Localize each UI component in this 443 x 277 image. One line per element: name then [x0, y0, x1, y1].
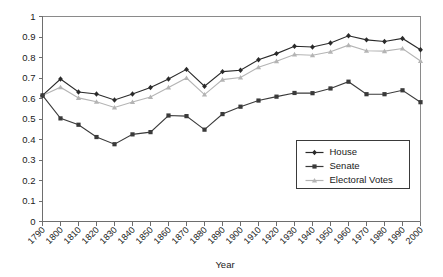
data-point-marker: [310, 91, 314, 95]
x-axis-tick-label: 1890: [206, 225, 227, 246]
data-point-marker: [184, 114, 188, 118]
series-line: [43, 82, 421, 145]
chart-legend: HouseSenateElectoral Votes: [297, 141, 410, 189]
data-point-marker: [148, 85, 153, 90]
data-point-marker: [346, 43, 351, 48]
legend-label-electoral-votes: Electoral Votes: [330, 174, 394, 185]
x-axis-tick-label: 1860: [152, 225, 173, 246]
x-axis-tick-label: 1880: [188, 225, 209, 246]
data-point-marker: [292, 44, 297, 49]
x-axis-tick-label: 1830: [98, 225, 119, 246]
x-axis-tick-label: 1870: [170, 225, 191, 246]
data-point-marker: [312, 164, 316, 168]
series-line: [43, 45, 421, 107]
x-axis-tick-label: 1790: [26, 225, 47, 246]
data-point-marker: [364, 37, 369, 42]
y-axis-tick-label: 0.1: [22, 195, 35, 206]
line-chart: 10.90.80.70.60.50.40.30.20.10 1790180018…: [0, 0, 443, 277]
legend-label-senate: Senate: [330, 160, 360, 171]
data-point-marker: [346, 33, 351, 38]
data-point-marker: [76, 95, 81, 100]
x-axis-tick-label: 1940: [296, 225, 317, 246]
data-point-marker: [274, 51, 279, 56]
data-point-marker: [130, 132, 134, 136]
data-point-marker: [238, 105, 242, 109]
x-axis-tick-label: 1970: [350, 225, 371, 246]
x-axis-title: Year: [215, 259, 234, 270]
legend-label-house: House: [330, 146, 357, 157]
x-axis-tick-label: 1900: [224, 225, 245, 246]
plot-frame: [43, 17, 421, 222]
y-axis-tick-label: 0.5: [22, 113, 35, 124]
data-point-marker: [94, 135, 98, 139]
y-axis-tick-label: 0: [30, 216, 35, 227]
data-point-marker: [166, 113, 170, 117]
data-point-marker: [202, 128, 206, 132]
chart-container: 10.90.80.70.60.50.40.30.20.10 1790180018…: [0, 0, 443, 277]
data-point-marker: [400, 46, 405, 51]
data-point-marker: [400, 36, 405, 41]
y-axis-tick-label: 0.8: [22, 52, 35, 63]
x-axis-tick-label: 2000: [404, 225, 425, 246]
data-point-marker: [328, 40, 333, 45]
x-axis-tick-label: 1950: [314, 225, 335, 246]
x-axis-tick-label: 1850: [134, 225, 155, 246]
data-point-marker: [76, 123, 80, 127]
x-axis-tick-label: 1910: [242, 225, 263, 246]
x-axis-tick-label: 1930: [278, 225, 299, 246]
data-point-marker: [292, 91, 296, 95]
x-axis-tick-label: 1960: [332, 225, 353, 246]
y-axis-tick-label: 1: [30, 11, 35, 22]
x-axis-tick-label: 1800: [44, 225, 65, 246]
data-point-marker: [184, 75, 189, 80]
x-axis-tick-label: 1820: [80, 225, 101, 246]
data-point-marker: [382, 92, 386, 96]
series-senate: [40, 80, 422, 147]
data-point-marker: [220, 112, 224, 116]
data-point-marker: [256, 98, 260, 102]
y-axis-tick-labels: 10.90.80.70.60.50.40.30.20.10: [22, 11, 35, 227]
data-series-group: [40, 33, 423, 146]
data-point-marker: [112, 142, 116, 146]
data-point-marker: [418, 100, 422, 104]
data-point-marker: [40, 93, 44, 97]
x-axis-tick-label: 1920: [260, 225, 281, 246]
y-axis-tick-label: 0.7: [22, 72, 35, 83]
data-point-marker: [418, 47, 423, 52]
data-point-marker: [148, 130, 152, 134]
data-point-marker: [58, 85, 63, 90]
x-axis-tick-label: 1980: [368, 225, 389, 246]
y-axis-tick-label: 0.6: [22, 93, 35, 104]
y-axis-tick-label: 0.3: [22, 154, 35, 165]
data-point-marker: [400, 88, 404, 92]
data-point-marker: [310, 44, 315, 49]
x-axis-tick-labels: 1790180018101820183018401850186018701880…: [26, 225, 425, 246]
data-point-marker: [238, 68, 243, 73]
data-point-marker: [166, 85, 171, 90]
data-point-marker: [382, 39, 387, 44]
series-electoral-votes: [40, 43, 423, 110]
y-axis-ticks: [39, 17, 43, 222]
data-point-marker: [256, 57, 261, 62]
y-axis-tick-label: 0.4: [22, 134, 35, 145]
data-point-marker: [274, 95, 278, 99]
data-point-marker: [76, 89, 81, 94]
x-axis-tick-label: 1990: [386, 225, 407, 246]
series-line: [43, 36, 421, 100]
data-point-marker: [112, 97, 117, 102]
x-axis-tick-label: 1840: [116, 225, 137, 246]
data-point-marker: [346, 80, 350, 84]
data-point-marker: [58, 116, 62, 120]
data-point-marker: [328, 86, 332, 90]
y-axis-tick-label: 0.2: [22, 175, 35, 186]
x-axis-tick-label: 1810: [62, 225, 83, 246]
data-point-marker: [94, 91, 99, 96]
data-point-marker: [148, 94, 153, 99]
y-axis-tick-label: 0.9: [22, 31, 35, 42]
data-point-marker: [166, 76, 171, 81]
data-point-marker: [130, 91, 135, 96]
data-point-marker: [364, 92, 368, 96]
